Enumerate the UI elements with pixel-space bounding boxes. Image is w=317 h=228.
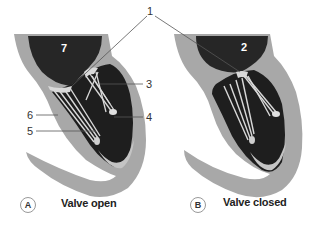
callout-label-6: 6 <box>27 109 33 121</box>
panel-b-badge: B <box>190 197 206 213</box>
panel-a-illustration: 7 <box>14 34 146 197</box>
panel-a-caption: Valve open <box>61 197 116 209</box>
panel-b-illustration: 2 <box>174 34 302 197</box>
callout-label-5: 5 <box>27 125 33 137</box>
panel-b-papillary-tip <box>272 111 280 117</box>
panel-a-papillary-base <box>94 137 100 145</box>
heart-valve-diagram: 7 2 <box>0 0 317 228</box>
panel-b-caption: Valve closed <box>223 196 287 208</box>
panel-a-badge: A <box>20 197 36 213</box>
callout-label-3: 3 <box>146 78 152 90</box>
callout-label-1: 1 <box>147 5 153 17</box>
callout-label-4: 4 <box>146 111 152 123</box>
panel-a-chamber-label: 7 <box>61 42 67 54</box>
panel-b-papillary-base <box>249 136 255 144</box>
panel-b-chamber-label: 2 <box>241 41 247 53</box>
panel-a-papillary-tip <box>109 109 117 115</box>
